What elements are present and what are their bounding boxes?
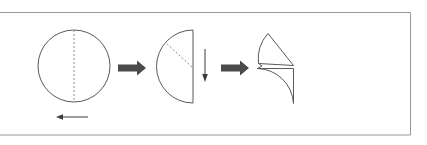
step-2-semicircle-group — [157, 30, 194, 103]
hinge-notch — [258, 64, 263, 69]
arrow-right-step1-to-step2 — [118, 61, 146, 76]
step-3-wedges-group — [258, 34, 294, 104]
semicircle-outline — [157, 30, 194, 103]
step-1-circle-group — [38, 30, 110, 102]
folding-sequence-figure — [0, 0, 427, 145]
arrow-down-fold — [202, 49, 208, 82]
arrow-left-fold-direction — [56, 114, 88, 120]
arrow-right-step2-to-step3 — [221, 61, 249, 76]
arrow-down-head — [202, 74, 208, 82]
arrow-right-2-glyph — [221, 61, 249, 76]
diagonal-fold-line — [167, 44, 192, 67]
lower-wedge-outline — [258, 69, 294, 104]
arrow-right-1-glyph — [118, 61, 146, 76]
diagram-canvas — [0, 0, 427, 145]
arrow-left-head — [56, 114, 63, 120]
upper-wedge-outline — [258, 34, 293, 66]
